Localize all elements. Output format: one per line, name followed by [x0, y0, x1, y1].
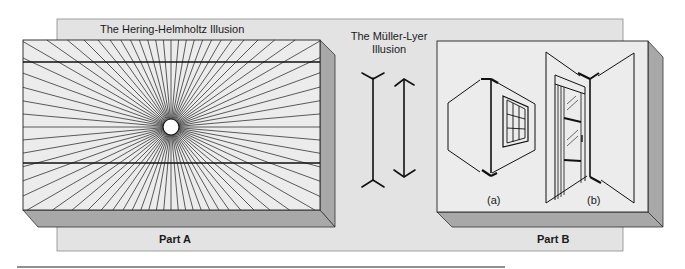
part-a-label: Part A [159, 233, 191, 246]
hering-helmholtz-title: The Hering-Helmholtz Illusion [100, 23, 244, 36]
center-circle [163, 119, 179, 135]
part-b-block [437, 41, 663, 227]
muller-lyer-title-line2: Illusion [348, 43, 430, 56]
part-a-side-face [320, 40, 335, 227]
part-a-bottom-face [23, 210, 335, 227]
part-b-front-face [437, 41, 648, 212]
part-b-side-face [648, 41, 663, 227]
illusion-figure [0, 0, 685, 269]
muller-lyer-title-line1: The Müller-Lyer [348, 30, 430, 43]
part-a-block [23, 40, 335, 227]
part-b-label: Part B [537, 233, 569, 246]
sublabel-b: (b) [587, 194, 600, 207]
part-b-bottom-face [437, 212, 663, 227]
sublabel-a: (a) [487, 194, 500, 207]
